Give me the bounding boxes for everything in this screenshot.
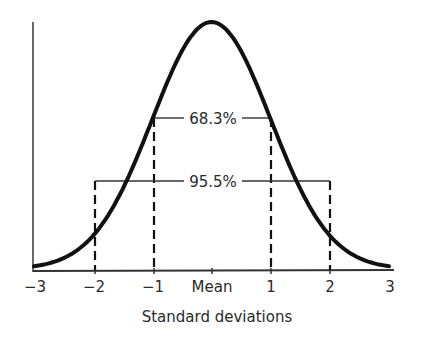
band-95-label: 95.5%	[189, 173, 237, 191]
tick-label-plus-3: 3	[385, 278, 395, 296]
tick-label-plus-1: 1	[266, 278, 276, 296]
normal-distribution-chart: 68.3% 95.5% −3 −2 −1 Mean 1 2 3 Standard…	[0, 0, 423, 342]
x-axis	[33, 270, 394, 271]
x-axis-title: Standard deviations	[142, 308, 293, 326]
tick-label-plus-2: 2	[325, 278, 335, 296]
tick-label-minus-1: −1	[142, 278, 164, 296]
x-tick-labels: −3 −2 −1 Mean 1 2 3	[24, 278, 395, 296]
normal-curve	[34, 22, 389, 266]
tick-label-minus-3: −3	[24, 278, 46, 296]
band-68-label: 68.3%	[189, 110, 237, 128]
tick-label-minus-2: −2	[83, 278, 105, 296]
tick-label-mean: Mean	[192, 278, 233, 296]
sd-dashed-lines	[95, 118, 330, 270]
